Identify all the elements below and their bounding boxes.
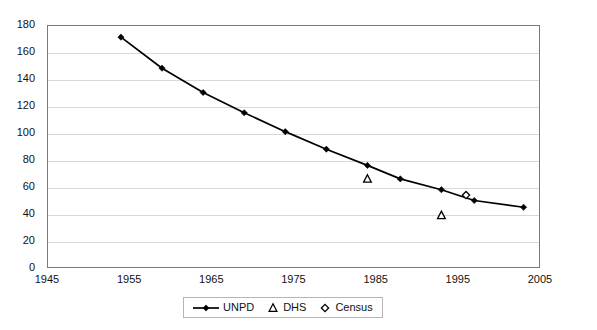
y-axis-tick-label: 20 [0, 235, 35, 246]
x-axis-tick-label: 1965 [181, 273, 241, 285]
open-triangle-icon [267, 302, 279, 314]
y-axis-tick-label: 100 [0, 127, 35, 138]
gridline [48, 107, 539, 108]
gridline [48, 53, 539, 54]
line-with-filled-diamond-icon [193, 302, 219, 314]
y-axis-tick-label: 60 [0, 181, 35, 192]
x-axis-tick-label: 2005 [510, 273, 570, 285]
y-axis-tick-label: 120 [0, 100, 35, 111]
gridline [48, 80, 539, 81]
gridline [48, 242, 539, 243]
y-axis-tick-label: 80 [0, 154, 35, 165]
chart-legend: UNPDDHSCensus [183, 297, 383, 318]
x-axis-tick-label: 1995 [428, 273, 488, 285]
y-axis-tick-label: 140 [0, 73, 35, 84]
legend-item-label: UNPD [223, 302, 254, 313]
gridline [48, 215, 539, 216]
legend-item-census[interactable]: Census [319, 302, 372, 314]
plot-area [47, 25, 540, 268]
legend-item-label: DHS [283, 302, 306, 313]
x-axis-tick-label: 1985 [346, 273, 406, 285]
legend-item-unpd[interactable]: UNPD [193, 302, 254, 314]
gridline [48, 161, 539, 162]
x-axis-tick-label: 1945 [17, 273, 77, 285]
y-axis-tick-label: 0 [0, 262, 35, 273]
x-axis-tick-label: 1955 [99, 273, 159, 285]
gridline [48, 188, 539, 189]
legend-item-label: Census [335, 302, 372, 313]
y-axis-tick-label: 160 [0, 46, 35, 57]
gridline [48, 134, 539, 135]
y-axis-tick-label: 180 [0, 19, 35, 30]
x-axis-tick-label: 1975 [264, 273, 324, 285]
chart-root: 020406080100120140160180 194519551965197… [0, 0, 597, 330]
open-diamond-icon [319, 302, 331, 314]
legend-item-dhs[interactable]: DHS [267, 302, 306, 314]
y-axis-tick-label: 40 [0, 208, 35, 219]
